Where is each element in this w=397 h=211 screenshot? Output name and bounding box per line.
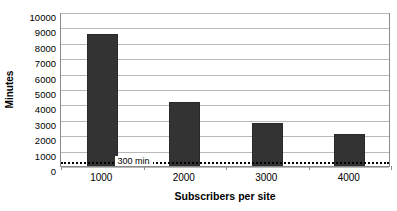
bar	[252, 123, 283, 166]
y-axis-tick-label: 3000	[20, 121, 56, 131]
y-axis-tick-label: 1000	[20, 152, 56, 162]
x-axis-tick-label: 4000	[319, 172, 379, 184]
y-axis-tick-label: 5000	[20, 90, 56, 100]
x-axis-tick-labels: 1000200030004000	[60, 172, 390, 186]
bar	[334, 134, 365, 166]
threshold-label: 300 min	[115, 156, 153, 166]
x-axis-title: Subscribers per site	[60, 190, 390, 202]
y-axis-tick-label: 8000	[20, 44, 56, 54]
y-axis-tick-label: 0	[20, 167, 56, 177]
x-axis-tick-label: 2000	[154, 172, 214, 184]
y-axis-title: Minutes	[4, 60, 15, 120]
bar	[169, 102, 200, 166]
y-axis-tick-label: 4000	[20, 105, 56, 115]
x-axis-tick-mark	[309, 166, 310, 170]
x-axis-tick-mark	[144, 166, 145, 170]
y-axis-tick-labels: 1000090008000700060005000400030002000100…	[20, 8, 56, 168]
y-axis-tick-label: 10000	[20, 13, 56, 23]
gridline	[61, 167, 389, 168]
y-axis-tick-label: 2000	[20, 136, 56, 146]
y-axis-tick-label: 9000	[20, 28, 56, 38]
threshold-line-300-min	[61, 162, 389, 164]
x-axis-tick-mark	[391, 166, 392, 170]
bar	[87, 34, 118, 166]
x-axis-tick-mark	[61, 166, 62, 170]
bar-chart-figure: Minutes 10000900080007000600050004000300…	[0, 0, 397, 211]
y-axis-tick-label: 7000	[20, 59, 56, 69]
x-axis-tick-label: 3000	[236, 172, 296, 184]
x-axis-tick-mark	[226, 166, 227, 170]
y-axis-tick-label: 6000	[20, 75, 56, 85]
x-axis-tick-label: 1000	[71, 172, 131, 184]
bars-group	[61, 13, 389, 166]
plot-area	[60, 13, 390, 167]
